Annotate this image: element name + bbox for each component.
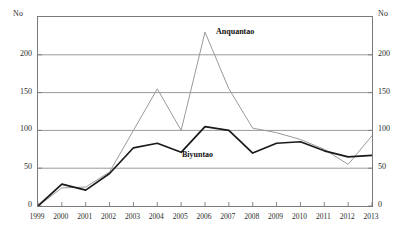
y-tick-left-150: 150 — [6, 88, 32, 96]
x-tick-2010: 2010 — [286, 213, 312, 221]
y-axis-unit-label-right: No — [378, 10, 388, 18]
plot-area — [37, 16, 373, 207]
x-tick-2003: 2003 — [119, 213, 145, 221]
x-tick-2007: 2007 — [215, 213, 241, 221]
series-line-biyuntao — [38, 127, 372, 206]
y-tick-left-50: 50 — [6, 163, 32, 171]
y-tick-right-100: 100 — [378, 125, 404, 133]
series-lines — [38, 32, 372, 206]
x-tick-2008: 2008 — [239, 213, 265, 221]
plot-svg — [38, 17, 372, 206]
y-tick-right-200: 200 — [378, 50, 404, 58]
series-label-anquantao: Anquantao — [216, 28, 254, 36]
x-tick-2004: 2004 — [143, 213, 169, 221]
x-tick-2013: 2013 — [358, 213, 384, 221]
y-tick-left-200: 200 — [6, 50, 32, 58]
y-tick-right-50: 50 — [378, 163, 404, 171]
y-tick-left-100: 100 — [6, 125, 32, 133]
x-tick-2006: 2006 — [191, 213, 217, 221]
series-line-anquantao — [38, 32, 372, 206]
x-tick-2002: 2002 — [96, 213, 122, 221]
y-tick-right-0: 0 — [378, 201, 404, 209]
x-tick-2012: 2012 — [334, 213, 360, 221]
series-label-biyuntao: Biyuntao — [182, 151, 213, 159]
line-chart: No No 200150100500 200150100500 19992000… — [0, 0, 407, 234]
x-tick-2009: 2009 — [263, 213, 289, 221]
x-tick-2000: 2000 — [48, 213, 74, 221]
y-tick-left-0: 0 — [6, 201, 32, 209]
y-tick-right-150: 150 — [378, 88, 404, 96]
x-tick-2011: 2011 — [310, 213, 336, 221]
x-tick-2005: 2005 — [167, 213, 193, 221]
gridlines — [38, 55, 372, 206]
x-tick-2001: 2001 — [72, 213, 98, 221]
y-axis-unit-label-left: No — [13, 10, 23, 18]
x-tick-1999: 1999 — [24, 213, 50, 221]
